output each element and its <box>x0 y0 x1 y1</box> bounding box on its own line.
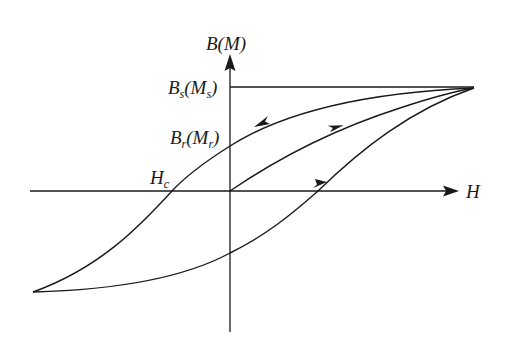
coercivity-label-sub: c <box>164 177 169 191</box>
saturation-label-sub: s <box>180 87 185 101</box>
coercivity-label-main: H <box>150 167 164 188</box>
hysteresis-diagram <box>0 0 506 362</box>
descending-arrow-icon <box>254 116 270 127</box>
remanence-label-sub: r <box>182 137 187 151</box>
b-axis-label-paren: M <box>224 33 240 54</box>
h-axis-label-text: H <box>466 181 480 202</box>
saturation-label-main: B <box>168 77 180 98</box>
b-axis-label-main: B <box>206 33 218 54</box>
remanence-label-main: B <box>170 127 182 148</box>
b-axis-label: B(M) <box>206 34 246 53</box>
remanence-label-paren-sub: r <box>208 137 213 151</box>
ascending-branch <box>33 88 474 292</box>
remanence-label-paren: M <box>193 127 209 148</box>
coercivity-label: Hc <box>150 168 169 190</box>
saturation-label-paren-sub: s <box>206 87 211 101</box>
saturation-label-paren: M <box>191 77 207 98</box>
remanence-label: Br(Mr) <box>170 128 219 150</box>
h-axis-label: H <box>466 182 480 201</box>
initial-curve-arrow-icon <box>328 121 344 133</box>
saturation-label: Bs(Ms) <box>168 78 217 100</box>
